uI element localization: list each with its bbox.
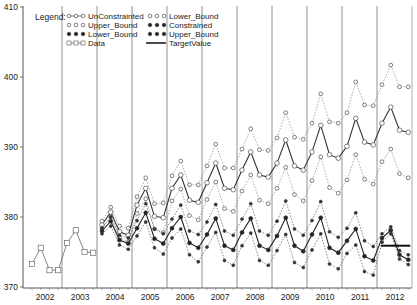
series-constrained — [100, 211, 410, 263]
x-tick-label: 2010 — [316, 292, 335, 302]
x-tick-label: 2003 — [71, 292, 90, 302]
legend-label-target-value: TargetValue — [169, 39, 212, 48]
x-tick-label: 2005 — [141, 292, 160, 302]
x-tick-label: 2004 — [106, 292, 125, 302]
x-tick-label: 2006 — [176, 292, 195, 302]
x-tick-label: 2011 — [351, 292, 370, 302]
series-data — [29, 228, 95, 273]
legend-title: Legend: — [35, 12, 66, 22]
y-tick-label: 400 — [4, 72, 18, 82]
y-tick-label: 390 — [4, 142, 18, 152]
legend-label-unconstrained: UnConstrainted — [88, 12, 144, 21]
series-lower-bound-constrained- — [101, 220, 410, 276]
legend-label-lower-bound-filled: Lower_Bound — [88, 30, 137, 39]
x-tick-label: 2009 — [281, 292, 300, 302]
y-tick-label: 370 — [4, 282, 18, 292]
series-upper-bound-constrained- — [101, 199, 410, 256]
legend-label-data: Data — [88, 39, 105, 48]
y-tick-label: 380 — [4, 212, 18, 222]
legend-label-lower-bound-open: Lower_Bound — [169, 12, 218, 21]
legend: Legend: UnConstrainted Upper_Bound Lower… — [35, 12, 218, 48]
x-tick-label: 2002 — [36, 292, 55, 302]
y-tick-label: 410 — [4, 2, 18, 12]
series-layer — [29, 63, 410, 276]
series-lower-bound-unconstrained- — [100, 147, 410, 244]
x-tick-label: 2007 — [211, 292, 230, 302]
legend-label-constrained: Constrained — [169, 21, 212, 30]
legend-label-upper-bound-filled: Upper_Bound — [169, 30, 218, 39]
forecast-chart: 2002200320042005200620072008200920102011… — [0, 0, 417, 305]
x-tick-label: 2008 — [246, 292, 265, 302]
legend-label-upper-bound-open: Upper_Bound — [88, 21, 137, 30]
x-tick-label: 2012 — [386, 292, 405, 302]
